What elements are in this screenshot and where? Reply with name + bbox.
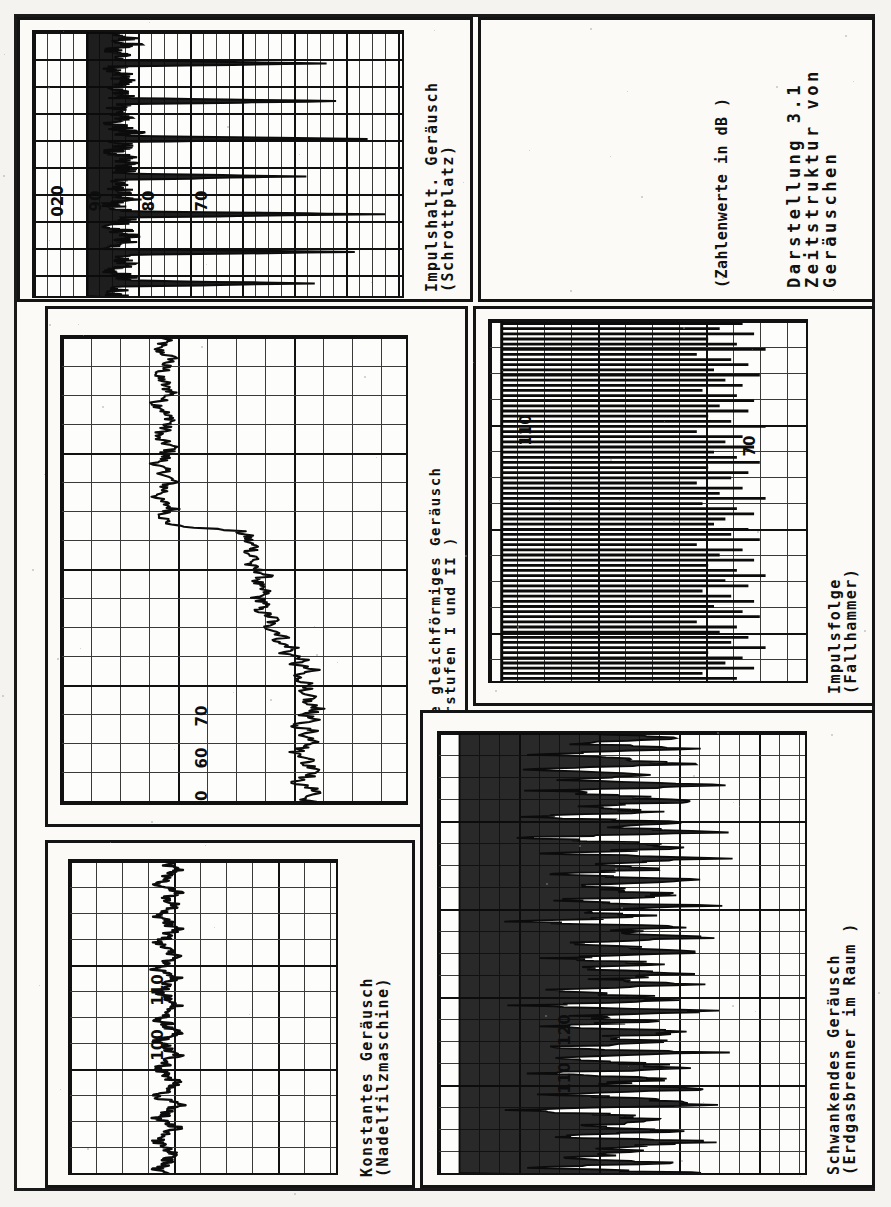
chart-schwankendes: 120 110 xyxy=(437,731,807,1175)
axis-label-3-0: 110 xyxy=(517,414,535,445)
axis-label-2-1: 60 xyxy=(193,748,211,769)
axis-label-1-3: 70 xyxy=(193,191,211,212)
chart-impulshaltiges: 020 90 80 70 xyxy=(32,30,404,298)
axis-label-2-2: 50 xyxy=(193,791,211,805)
axis-label-4-1: 100 xyxy=(149,1029,167,1060)
panel-impulsfolge: 110 70 Impulsfolge (Fallhammer) xyxy=(473,306,875,706)
chart-konstantes: 110 100 xyxy=(68,859,338,1175)
panel-subtitle-text: (Schrottplatz) xyxy=(441,81,457,292)
caption-line-3: Geräuschen xyxy=(822,68,840,288)
panel-subtitle-text: (Nadelfilzmaschine) xyxy=(376,977,392,1177)
chart-stufenweise: 70 60 50 xyxy=(60,335,408,805)
panel-impulshaltiges: 020 90 80 70 Impulshalt. Geräusch (Schro… xyxy=(17,17,473,302)
panel-subtitle-text: (Erdgasbrenner im Raum ) xyxy=(843,922,859,1175)
caption-line-2: Zeitstruktur von xyxy=(804,68,822,288)
axis-label-1-1: 90 xyxy=(87,191,105,212)
axis-label-1-2: 80 xyxy=(140,191,158,212)
axis-label-1-0: 020 xyxy=(49,185,67,216)
panel-subtitle-text: (Fallhammer) xyxy=(844,568,860,694)
panel-title-impulshaltiges: Impulshalt. Geräusch (Schrottplatz) xyxy=(425,81,457,292)
panel-title-impulsfolge: Impulsfolge (Fallhammer) xyxy=(828,568,860,694)
chart-trace xyxy=(62,337,406,803)
chart-trace xyxy=(439,733,805,1173)
axis-label-2-0: 70 xyxy=(193,706,211,727)
panel-konstantes: 110 100 Konstantes Geräusch (Nadelfilzma… xyxy=(45,840,415,1188)
panel-figure-caption: Darstellung 3.1 Zeitstruktur von Geräusc… xyxy=(478,17,875,302)
axis-label-5-1: 110 xyxy=(556,1062,574,1093)
scanned-page: 020 90 80 70 Impulshalt. Geräusch (Schro… xyxy=(0,0,891,1207)
chart-trace xyxy=(34,32,402,296)
caption-main: Darstellung 3.1 Zeitstruktur von Geräusc… xyxy=(786,68,840,288)
chart-trace xyxy=(70,861,336,1173)
panel-stufenweise: 70 60 50 Stufenweise gleichförmiges Gerä… xyxy=(45,306,468,827)
axis-label-4-0: 110 xyxy=(149,974,167,1005)
axis-label-3-1: 70 xyxy=(741,436,759,457)
caption-body: Darstellung 3.1 Zeitstruktur von Geräusc… xyxy=(481,20,872,299)
panel-title-konstantes: Konstantes Geräusch (Nadelfilzmaschine) xyxy=(360,977,392,1177)
axis-label-5-0: 120 xyxy=(556,1014,574,1045)
chart-impulsfolge: 110 70 xyxy=(488,319,808,683)
chart-trace xyxy=(490,321,806,681)
panel-title-schwankendes: Schwankendes Geräusch (Erdgasbrenner im … xyxy=(827,922,859,1175)
panel-schwankendes: 120 110 Schwankendes Geräusch (Erdgasbre… xyxy=(420,710,875,1188)
caption-units: (Zahlenwerte in dB ) xyxy=(713,97,731,288)
